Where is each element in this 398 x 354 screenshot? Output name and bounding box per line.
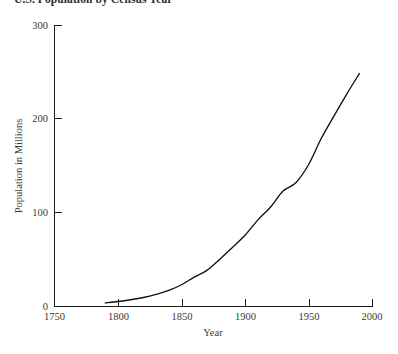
x-tick-label-2000: 2000 bbox=[362, 311, 383, 322]
chart-figure: U.S. Population by Census Year 0 100 200… bbox=[0, 0, 398, 354]
y-axis-label: Population in Millions bbox=[13, 119, 24, 214]
x-tick-label-1800: 1800 bbox=[108, 311, 129, 322]
x-tick-label-1850: 1850 bbox=[172, 311, 193, 322]
x-axis-ticks bbox=[55, 299, 373, 307]
x-tick-label-1750: 1750 bbox=[44, 311, 65, 322]
x-tick-label-1900: 1900 bbox=[235, 311, 256, 322]
x-axis-label: Year bbox=[203, 327, 223, 338]
x-tick-label-1950: 1950 bbox=[299, 311, 320, 322]
y-tick-label-300: 300 bbox=[32, 20, 48, 31]
axis-spines bbox=[55, 25, 373, 307]
y-axis-ticks bbox=[55, 26, 63, 307]
y-tick-label-200: 200 bbox=[32, 113, 48, 124]
population-line bbox=[105, 74, 359, 303]
chart-plot-area: 0 100 200 300 1750 1800 1850 1900 1950 2… bbox=[0, 0, 398, 354]
y-tick-label-100: 100 bbox=[32, 207, 48, 218]
